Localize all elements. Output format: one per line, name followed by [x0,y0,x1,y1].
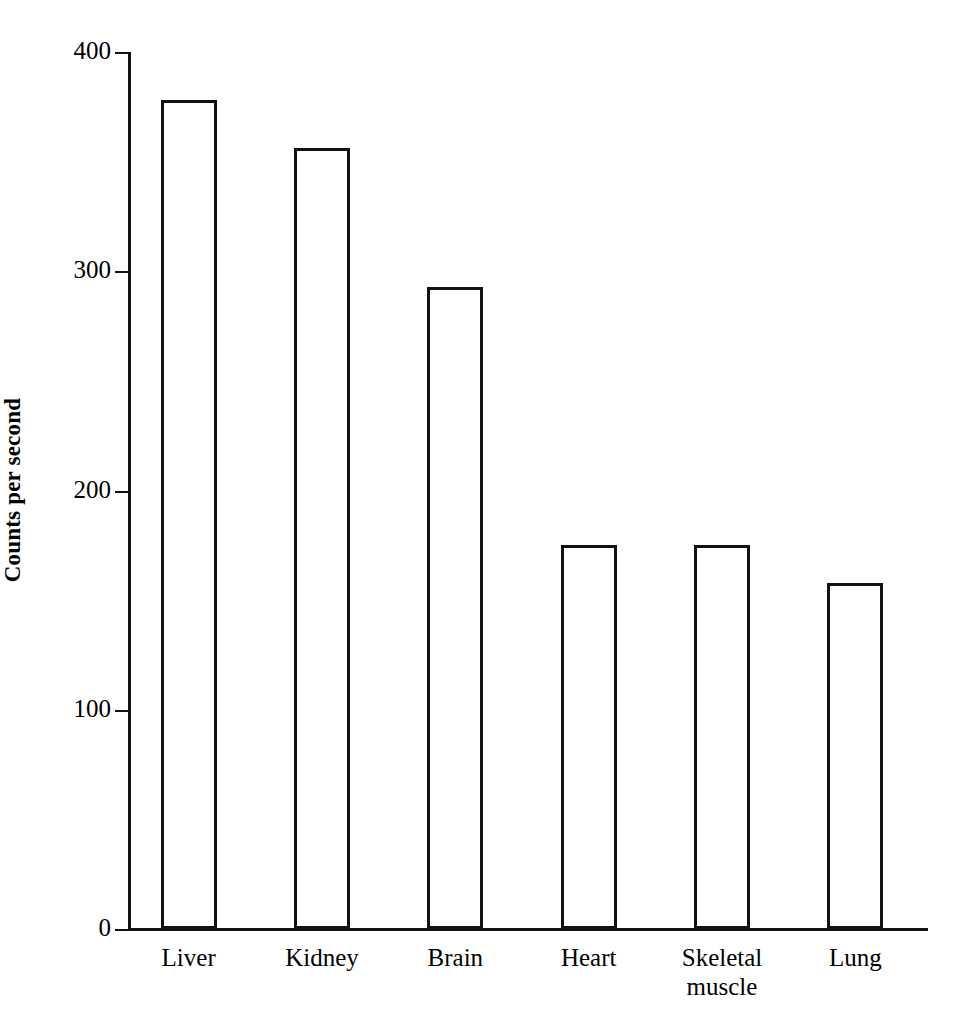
y-axis-tick-mark [115,271,129,273]
y-axis-tick-label: 100 [74,696,112,722]
bar-kidney [294,148,350,929]
y-axis-tick-mark [115,710,129,712]
bar-brain [427,287,483,929]
x-axis-line [128,928,928,931]
y-axis-tick-label: 300 [74,257,112,283]
bar-skeletal-muscle [694,545,750,929]
bar-chart-figure: Counts per second 0100200300400 LiverKid… [0,0,975,1025]
bar-heart [561,545,617,929]
y-axis-tick-mark [115,491,129,493]
y-axis-tick-label: 400 [74,38,112,64]
y-axis-tick-mark [115,929,129,931]
y-axis-tick-label: 0 [99,915,112,941]
bar-lung [827,583,883,929]
plot-area: 0100200300400 LiverKidneyBrainHeartSkele… [128,40,928,940]
y-axis-tick-label: 200 [74,477,112,503]
y-axis-title: Counts per second [0,340,26,640]
y-axis-tick-mark [115,52,129,54]
x-axis-label-lung: Lung [765,943,945,972]
bar-liver [161,100,217,929]
